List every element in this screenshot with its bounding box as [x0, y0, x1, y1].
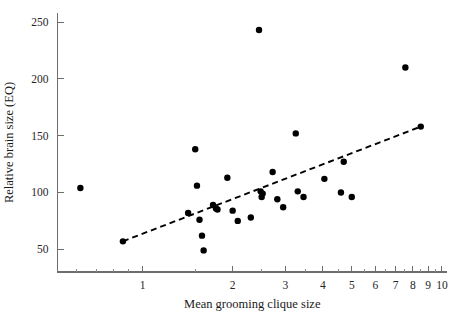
tick-marks: [58, 22, 442, 272]
data-point: [199, 232, 205, 238]
data-point: [295, 188, 301, 194]
data-point: [214, 206, 220, 212]
y-tick-label-50: 50: [37, 243, 49, 255]
x-tick-label-1: 1: [140, 279, 146, 291]
y-axis-tick-labels: 50100150200250: [31, 16, 49, 255]
trendline: [123, 127, 421, 242]
x-tick-label-3: 3: [282, 279, 288, 291]
y-tick-label-150: 150: [31, 130, 49, 142]
regression-trendline: [123, 127, 421, 242]
data-point: [235, 218, 241, 224]
x-tick-label-4: 4: [320, 279, 326, 291]
axes: [58, 13, 448, 272]
data-point: [224, 175, 230, 181]
plot-canvas: 12345678910 50100150200250 Mean grooming…: [0, 0, 457, 320]
data-point: [293, 130, 299, 136]
data-point: [280, 204, 286, 210]
data-point: [349, 194, 355, 200]
data-point: [196, 217, 202, 223]
x-tick-label-8: 8: [410, 279, 416, 291]
scatter-plot-figure: 12345678910 50100150200250 Mean grooming…: [0, 0, 457, 320]
y-tick-label-100: 100: [31, 186, 49, 198]
x-tick-label-5: 5: [349, 279, 355, 291]
data-point: [300, 194, 306, 200]
x-tick-label-9: 9: [425, 279, 431, 291]
x-axis-title: Mean grooming clique size: [184, 297, 321, 311]
data-point: [185, 210, 191, 216]
data-point: [77, 185, 83, 191]
x-tick-label-7: 7: [393, 279, 399, 291]
data-point: [402, 64, 408, 70]
data-point: [229, 207, 235, 213]
data-point: [200, 247, 206, 253]
data-point: [248, 214, 254, 220]
x-tick-label-2: 2: [230, 279, 236, 291]
data-point: [120, 238, 126, 244]
data-point: [321, 176, 327, 182]
x-tick-label-6: 6: [373, 279, 379, 291]
data-point: [269, 169, 275, 175]
data-point: [341, 159, 347, 165]
data-point: [194, 182, 200, 188]
x-axis-tick-labels: 12345678910: [140, 279, 448, 291]
data-point: [338, 189, 344, 195]
axis-spine: [58, 13, 448, 272]
data-point: [192, 146, 198, 152]
data-point: [274, 196, 280, 202]
data-point: [259, 190, 265, 196]
y-tick-label-250: 250: [31, 16, 49, 28]
x-tick-label-10: 10: [436, 279, 448, 291]
y-tick-label-200: 200: [31, 73, 49, 85]
data-point: [256, 27, 262, 33]
data-point: [418, 123, 424, 129]
data-points: [77, 27, 424, 254]
y-axis-title: Relative brain size (EQ): [2, 82, 16, 203]
